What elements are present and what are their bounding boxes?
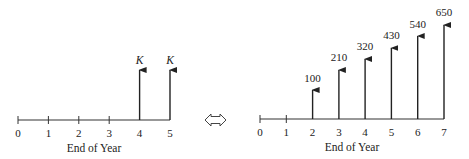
right-cash-flow-arrow: 540 (409, 18, 426, 119)
tick-label: 2 (76, 127, 82, 139)
cash-flow-label: 540 (409, 18, 426, 30)
tick-label: 1 (46, 127, 52, 139)
tick-label: 1 (284, 126, 290, 138)
cash-flow-label: K (135, 54, 145, 66)
left-cash-flow-arrow: K (165, 54, 175, 120)
tick-label: 3 (106, 127, 112, 139)
right-cash-flow-arrow: 100 (304, 72, 321, 119)
tick-label: 2 (310, 126, 316, 138)
left-cash-flow-arrow: K (135, 54, 145, 120)
tick-label: 5 (167, 127, 173, 139)
tick-label: 5 (389, 126, 395, 138)
cash-flow-label: 430 (383, 29, 400, 41)
tick-label: 7 (441, 126, 447, 138)
right-axis-title: End of Year (325, 141, 380, 153)
left-tick-labels: 0 1 2 3 4 5 (15, 127, 173, 139)
tick-label: 4 (362, 126, 368, 138)
left-axis-title: End of Year (67, 142, 122, 154)
right-cash-flow-arrow: 210 (331, 51, 348, 119)
right-cash-flow-diagram: 0 1 2 3 4 5 6 7 End of Year 100 210 320 … (257, 6, 453, 153)
right-cash-flow-arrow: 650 (436, 6, 453, 119)
cash-flow-label: 320 (357, 40, 374, 52)
cash-flow-label: 650 (436, 6, 453, 18)
right-cash-flow-arrow: 430 (383, 29, 400, 119)
cash-flow-label: K (165, 54, 175, 66)
tick-label: 3 (336, 126, 342, 138)
tick-label: 6 (415, 126, 421, 138)
cash-flow-label: 100 (304, 72, 321, 84)
double-arrow-icon (205, 114, 226, 126)
left-cash-flow-diagram: 0 1 2 3 4 5 End of Year K K (15, 54, 175, 154)
tick-label: 0 (15, 127, 21, 139)
cash-flow-label: 210 (331, 51, 348, 63)
tick-label: 0 (257, 126, 263, 138)
right-tick-labels: 0 1 2 3 4 5 6 7 (257, 126, 447, 138)
tick-label: 4 (137, 127, 143, 139)
cash-flow-diagrams: 0 1 2 3 4 5 End of Year K K 0 1 2 (0, 0, 469, 159)
right-cash-flow-arrow: 320 (357, 40, 374, 119)
